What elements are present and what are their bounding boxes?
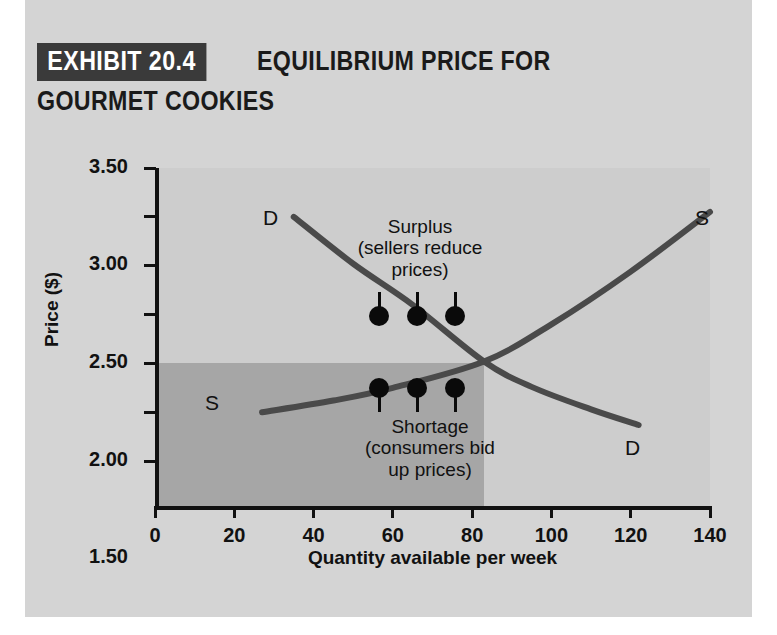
surplus-markers (368, 292, 466, 326)
surplus-annotation-line-2: (sellers reduce (330, 237, 510, 258)
figure-title-line-2: GOURMET COOKIES (37, 88, 274, 115)
marker-bulb (445, 378, 465, 398)
surplus-marker (444, 292, 466, 326)
figure-title-line-1: EQUILIBRIUM PRICE FOR (257, 48, 551, 75)
marker-bulb (369, 378, 389, 398)
x-tick-label: 40 (302, 524, 324, 547)
surplus-marker (406, 292, 428, 326)
marker-bulb (445, 306, 465, 326)
demand-curve-label-top: D (263, 206, 278, 230)
x-tick-label: 60 (382, 524, 404, 547)
marker-stem (416, 292, 419, 307)
marker-stem (416, 397, 419, 412)
shortage-annotation-line-1: Shortage (330, 416, 530, 437)
shortage-annotation: Shortage (consumers bid up prices) (330, 416, 530, 480)
surplus-marker (368, 292, 390, 326)
y-tick-label: 3.50 (89, 155, 128, 178)
shortage-annotation-line-2: (consumers bid (330, 437, 530, 458)
marker-bulb (369, 306, 389, 326)
shortage-marker (444, 378, 466, 412)
plot-area: 0.501.001.502.002.503.003.50 02040608010… (155, 168, 710, 510)
x-tick-label: 140 (693, 524, 726, 547)
shortage-marker (368, 378, 390, 412)
marker-stem (378, 292, 381, 307)
y-axis-title: Price ($) (41, 272, 63, 347)
y-tick-label: 1.50 (89, 545, 128, 568)
surplus-annotation-line-3: prices) (330, 259, 510, 280)
chart-area: Price ($) 0.501.001.502.002.503.003.50 0… (25, 132, 752, 587)
demand-curve-label-bottom: D (625, 436, 640, 460)
figure-header: EXHIBIT 20.4 EQUILIBRIUM PRICE FOR GOURM… (25, 38, 752, 118)
marker-bulb (407, 306, 427, 326)
shortage-markers (368, 378, 466, 412)
y-tick-label: 2.00 (89, 448, 128, 471)
x-tick-label: 120 (614, 524, 647, 547)
marker-bulb (407, 378, 427, 398)
shortage-annotation-line-3: up prices) (330, 459, 530, 480)
supply-curve-label-bottom: S (205, 391, 219, 415)
surplus-annotation-line-1: Surplus (330, 216, 510, 237)
marker-stem (454, 292, 457, 307)
shortage-marker (406, 378, 428, 412)
marker-stem (454, 397, 457, 412)
x-tick-label: 100 (535, 524, 568, 547)
x-axis-title: Quantity available per week (155, 547, 710, 569)
x-tick-label: 0 (149, 524, 160, 547)
surplus-annotation: Surplus (sellers reduce prices) (330, 216, 510, 280)
x-tick-label: 80 (461, 524, 483, 547)
supply-curve-label-top: S (695, 206, 709, 230)
marker-stem (378, 397, 381, 412)
y-tick-label: 2.50 (89, 350, 128, 373)
exhibit-number-badge: EXHIBIT 20.4 (37, 43, 206, 81)
y-tick-label: 3.00 (89, 252, 128, 275)
exhibit-figure: EXHIBIT 20.4 EQUILIBRIUM PRICE FOR GOURM… (0, 0, 777, 635)
x-tick-label: 20 (223, 524, 245, 547)
